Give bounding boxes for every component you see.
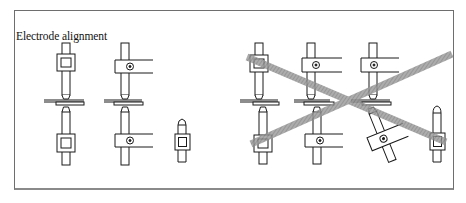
bottom-arm-bolt-center [319,140,321,142]
correct-square-clamp-pair [44,43,84,165]
bottom-electrode-tip [121,107,129,112]
correct-single-electrode [175,119,190,162]
top-arm-bolt-center [373,64,375,66]
top-arm-clamp [302,58,342,72]
sheet-lower [253,102,279,105]
top-arm-bolt-center [315,64,317,66]
top-electrode-tip [62,95,70,99]
electrode-diagram [0,0,466,203]
cross-out-mark [247,54,452,144]
bottom-electrode-tip [62,107,70,112]
top-square-clamp-inner [61,58,71,67]
sheet-lower [304,102,334,105]
top-electrode-tip [369,95,377,99]
bottom-electrode-tip [259,107,267,112]
top-electrode-tip [255,95,263,99]
top-arm-bolt-center [129,66,131,68]
bottom-arm-bolt-center [382,137,385,140]
top-electrode-tip [121,95,129,99]
top-arm-clamp [361,58,399,72]
top-electrode-tip [307,95,315,99]
bottom-arm-bolt-center [129,140,131,142]
single-square-clamp-inner [179,138,187,147]
sheet-lower [114,102,143,105]
correct-arm-clamp-pair [104,43,153,165]
sheet-lower [56,102,84,105]
bottom-square-clamp-inner [61,138,71,148]
